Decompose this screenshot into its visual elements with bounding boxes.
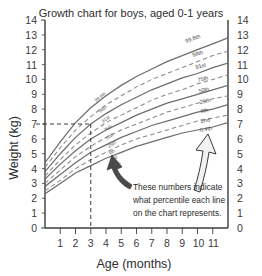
x-tick-5: 5 bbox=[118, 237, 124, 249]
x-tick-2: 2 bbox=[73, 237, 79, 249]
y-tick-right-12: 12 bbox=[237, 44, 249, 56]
x-tick-11: 11 bbox=[208, 237, 219, 249]
y-axis-title: Weight (kg) bbox=[7, 116, 21, 180]
y-tick-right-8: 8 bbox=[237, 103, 243, 115]
y-axis-labels-left: 0 1 2 3 4 5 6 7 8 9 10 11 12 13 14 bbox=[25, 14, 37, 234]
y-tick-left-5: 5 bbox=[31, 148, 37, 160]
y-tick-right-6: 6 bbox=[237, 133, 243, 145]
x-tick-8: 8 bbox=[164, 237, 170, 249]
y-tick-right-7: 7 bbox=[237, 118, 243, 130]
chart-title: Growth chart for boys, aged 0-1 years bbox=[39, 7, 224, 19]
note-line-1: These numbers indicate bbox=[133, 182, 223, 192]
y-tick-left-1: 1 bbox=[31, 207, 37, 219]
y-tick-left-10: 10 bbox=[25, 73, 37, 85]
y-tick-right-2: 2 bbox=[237, 192, 243, 204]
x-axis-ticks bbox=[60, 228, 213, 234]
y-tick-right-5: 5 bbox=[237, 148, 243, 160]
y-tick-right-9: 9 bbox=[237, 88, 243, 100]
y-tick-right-11: 11 bbox=[237, 59, 248, 71]
x-tick-10: 10 bbox=[193, 237, 205, 249]
y-tick-right-1: 1 bbox=[237, 207, 243, 219]
y-tick-left-13: 13 bbox=[25, 29, 37, 41]
pct-label-right-9th: 9th bbox=[200, 107, 209, 114]
x-axis-labels: 1 2 3 4 5 6 7 8 9 10 11 bbox=[57, 237, 219, 249]
x-tick-4: 4 bbox=[103, 237, 109, 249]
x-tick-1: 1 bbox=[57, 237, 63, 249]
pct-label-right-98th: 98th bbox=[192, 49, 204, 58]
annotation-arrow-left bbox=[107, 155, 132, 189]
pct-label-right-91st: 91st bbox=[195, 61, 207, 70]
y-axis-labels-right: 0 1 2 3 4 5 6 7 8 9 10 11 12 13 14 bbox=[237, 14, 249, 234]
y-tick-right-10: 10 bbox=[237, 73, 249, 85]
y-tick-left-0: 0 bbox=[31, 222, 37, 234]
chart-svg: Growth chart for boys, aged 0-1 years bbox=[0, 0, 262, 276]
y-tick-left-3: 3 bbox=[31, 177, 37, 189]
pct-label-right-50th: 50th bbox=[198, 86, 210, 94]
y-tick-left-11: 11 bbox=[26, 59, 37, 71]
y-tick-left-12: 12 bbox=[25, 44, 37, 56]
x-tick-3: 3 bbox=[88, 237, 94, 249]
growth-chart: Growth chart for boys, aged 0-1 years bbox=[0, 0, 262, 276]
note-line-3: on the chart represents. bbox=[133, 208, 221, 218]
y-tick-right-3: 3 bbox=[237, 177, 243, 189]
pct-label-right-0-4th: 0.4th bbox=[199, 125, 212, 133]
y-tick-right-14: 14 bbox=[237, 14, 249, 26]
guide-lines bbox=[36, 124, 91, 228]
x-axis-title: Age (months) bbox=[96, 257, 171, 271]
pct-label-right-75th: 75th bbox=[197, 75, 209, 83]
y-tick-right-4: 4 bbox=[237, 163, 243, 175]
pct-label-right-99-6th: 99.6th bbox=[184, 33, 201, 44]
y-tick-left-6: 6 bbox=[31, 133, 37, 145]
y-tick-left-4: 4 bbox=[31, 163, 37, 175]
y-tick-left-8: 8 bbox=[31, 103, 37, 115]
y-tick-left-9: 9 bbox=[31, 88, 37, 100]
percentile-labels-right: 99.6th 98th 91st 75th 50th 25th 9th 2nd … bbox=[184, 33, 212, 133]
x-tick-7: 7 bbox=[149, 237, 155, 249]
y-tick-left-2: 2 bbox=[31, 192, 37, 204]
x-tick-6: 6 bbox=[134, 237, 140, 249]
percentile-note: These numbers indicate what percentile e… bbox=[132, 182, 226, 218]
note-line-2: what percentile each line bbox=[132, 195, 226, 205]
y-tick-right-0: 0 bbox=[237, 222, 243, 234]
y-tick-right-13: 13 bbox=[237, 29, 249, 41]
pct-label-right-2nd: 2nd bbox=[200, 116, 210, 124]
pct-label-right-25th: 25th bbox=[199, 97, 211, 105]
pct-label-left-98th: 98th bbox=[98, 104, 109, 114]
y-tick-left-14: 14 bbox=[25, 14, 37, 26]
x-tick-9: 9 bbox=[179, 237, 185, 249]
